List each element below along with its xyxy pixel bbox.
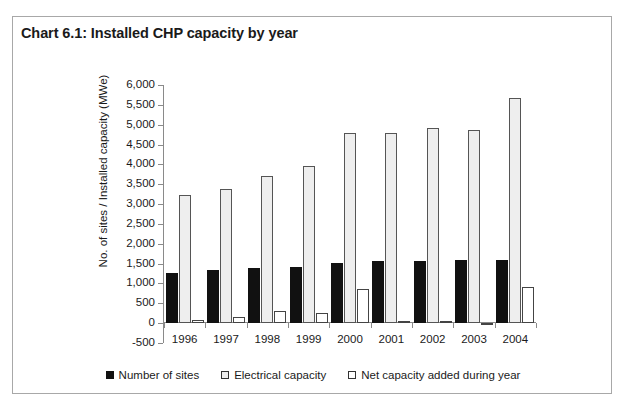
x-axis-tick-label: 2001 — [379, 333, 405, 345]
bar-sites — [414, 261, 426, 323]
y-axis-tick-mark — [158, 303, 163, 304]
x-axis-tick-label: 2000 — [337, 333, 363, 345]
bar-sites — [372, 261, 384, 323]
bar-netadd — [398, 321, 410, 323]
bar-sites — [248, 268, 260, 323]
bar-netadd — [481, 323, 493, 325]
y-axis-tick-mark — [158, 283, 163, 284]
y-axis-tick-mark — [158, 125, 163, 126]
y-axis-tick-label: 1,000 — [126, 278, 155, 290]
legend-swatch-sites-icon — [106, 371, 114, 379]
bar-group — [247, 85, 288, 343]
bar-group — [164, 85, 205, 343]
legend-label: Number of sites — [119, 369, 200, 381]
x-axis-tick-label: 1998 — [255, 333, 281, 345]
chart-title: Chart 6.1: Installed CHP capacity by yea… — [21, 25, 298, 41]
legend-item: Electrical capacity — [221, 369, 326, 381]
y-axis-tick-label: 3,000 — [126, 198, 155, 210]
y-axis-tick-mark — [158, 343, 163, 344]
legend-swatch-netadd-icon — [348, 371, 356, 379]
y-axis-tick-label: 5,000 — [126, 119, 155, 131]
legend-item: Number of sites — [106, 369, 200, 381]
bar-group — [495, 85, 536, 343]
x-axis-tick-label: 1996 — [172, 333, 198, 345]
y-axis-tick-mark — [158, 264, 163, 265]
bar-netadd — [192, 320, 204, 324]
y-axis-tick-label: 4,500 — [126, 139, 155, 151]
bar-group — [371, 85, 412, 343]
x-axis-tick-label: 2004 — [503, 333, 529, 345]
bar-sites — [331, 263, 343, 323]
bar-sites — [166, 273, 178, 323]
bar-sites — [455, 260, 467, 323]
plot-wrapper: No. of sites / Installed capacity (MWe) … — [13, 59, 613, 359]
bar-netadd — [233, 317, 245, 323]
bar-netadd — [274, 311, 286, 323]
legend-label: Net capacity added during year — [361, 369, 520, 381]
x-axis-tick-label: 2002 — [420, 333, 446, 345]
bar-sites — [207, 270, 219, 323]
y-axis-tick-label: 5,500 — [126, 99, 155, 111]
plot-area — [164, 85, 536, 343]
bar-electrical — [303, 166, 315, 324]
bar-electrical — [179, 195, 191, 323]
bar-netadd — [522, 287, 534, 323]
y-axis-title: No. of sites / Installed capacity (MWe) — [97, 51, 109, 291]
bar-electrical — [385, 133, 397, 323]
bar-netadd — [316, 313, 328, 323]
x-axis-tick-mark — [329, 323, 330, 328]
bar-electrical — [468, 130, 480, 323]
x-axis-tick-mark — [247, 323, 248, 328]
x-axis-tick-label: 1997 — [213, 333, 239, 345]
bar-group — [453, 85, 494, 343]
x-axis-tick-label: 2003 — [461, 333, 487, 345]
bar-netadd — [440, 321, 452, 323]
x-axis-tick-mark — [371, 323, 372, 328]
y-axis-tick-label: -500 — [132, 337, 155, 349]
y-axis-tick-label: 6,000 — [126, 79, 155, 91]
y-axis-tick-mark — [158, 105, 163, 106]
y-axis-tick-mark — [158, 204, 163, 205]
bar-electrical — [344, 133, 356, 323]
x-axis-tick-label: 1999 — [296, 333, 322, 345]
y-axis-tick-label: 2,000 — [126, 238, 155, 250]
y-axis-tick-mark — [158, 224, 163, 225]
y-axis-tick-labels: 6,0005,5005,0004,5004,0003,5003,0002,500… — [111, 85, 155, 343]
bar-group — [288, 85, 329, 343]
x-axis-tick-mark — [536, 323, 537, 328]
bar-electrical — [427, 128, 439, 323]
legend-label: Electrical capacity — [234, 369, 326, 381]
y-axis-tick-label: 3,500 — [126, 178, 155, 190]
x-axis-tick-mark — [412, 323, 413, 328]
y-axis-tick-mark — [158, 184, 163, 185]
bar-group — [412, 85, 453, 343]
bar-sites — [290, 267, 302, 323]
y-axis-tick-mark — [158, 145, 163, 146]
y-axis-tick-label: 4,000 — [126, 159, 155, 171]
chart-legend: Number of sitesElectrical capacityNet ca… — [13, 369, 613, 381]
y-axis-tick-label: 0 — [149, 317, 155, 329]
bar-sites — [496, 260, 508, 323]
x-axis-tick-mark — [164, 323, 165, 328]
bar-netadd — [357, 289, 369, 324]
y-axis-tick-label: 500 — [136, 298, 155, 310]
bar-electrical — [509, 98, 521, 323]
y-axis-tick-mark — [158, 323, 163, 324]
bar-electrical — [261, 176, 273, 323]
y-axis-tick-label: 2,500 — [126, 218, 155, 230]
bar-electrical — [220, 189, 232, 324]
x-axis-tick-mark — [205, 323, 206, 328]
legend-swatch-electrical-icon — [221, 371, 229, 379]
x-axis-tick-mark — [453, 323, 454, 328]
x-axis-tick-labels: 199619971998199920002001200220032004 — [164, 333, 536, 351]
page-top-sliver — [0, 0, 625, 16]
bar-group — [205, 85, 246, 343]
legend-item: Net capacity added during year — [348, 369, 520, 381]
x-axis-tick-mark — [288, 323, 289, 328]
x-axis-tick-mark — [495, 323, 496, 328]
bar-group — [329, 85, 370, 343]
y-axis-tick-mark — [158, 85, 163, 86]
y-axis-tick-mark — [158, 164, 163, 165]
chart-frame: Chart 6.1: Installed CHP capacity by yea… — [12, 16, 612, 394]
y-axis-tick-label: 1,500 — [126, 258, 155, 270]
